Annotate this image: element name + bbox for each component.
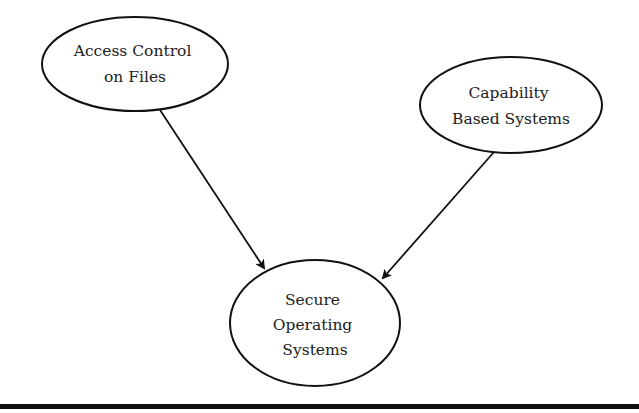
- node-label-line: Secure: [285, 291, 340, 309]
- node-label-line: on Files: [104, 68, 166, 86]
- node-ellipse: [42, 17, 228, 111]
- svg-text:Secure Operating S: Secure Operating Systems: [273, 291, 357, 359]
- node-label-line: Systems: [282, 341, 347, 359]
- bottom-rule: [0, 404, 639, 409]
- node-ellipse: [420, 57, 602, 153]
- diagram-canvas: Access Control on Files Capability Based…: [0, 0, 639, 413]
- node-label-line: Access Control: [73, 42, 192, 60]
- node-access-control-on-files: Access Control on Files: [42, 17, 228, 111]
- node-label-line: Based Systems: [452, 110, 570, 128]
- node-secure-operating-systems: Secure Operating Systems: [230, 260, 400, 386]
- edge-access-control-to-secure-os: [160, 110, 264, 268]
- node-capability-based-systems: Capability Based Systems: [420, 57, 602, 153]
- node-label-line: Operating: [273, 316, 353, 334]
- edge-capability-to-secure-os: [383, 152, 494, 278]
- node-label-line: Capability: [469, 84, 549, 102]
